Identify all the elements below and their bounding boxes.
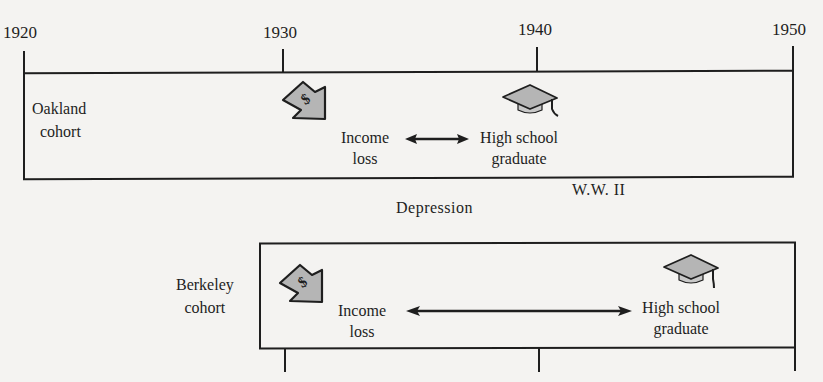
oakland-cohort-label: Oakland cohort (32, 97, 86, 143)
tick-1950 (792, 46, 794, 70)
berkeley-event2-line2: graduate (636, 318, 726, 339)
berkeley-income-loss-label: Income loss (330, 300, 394, 342)
year-label-1920: 1920 (3, 24, 37, 41)
berkeley-label-line2: cohort (176, 296, 234, 319)
double-arrow-icon (405, 133, 469, 145)
oakland-hs-graduate-label: High school graduate (474, 127, 564, 169)
graduation-cap-icon (663, 254, 721, 290)
falling-dollar-arrow-icon: $ (278, 261, 328, 306)
oakland-event1-line2: loss (333, 148, 397, 169)
berkeley-cohort-label: Berkeley cohort (176, 273, 234, 319)
berkeley-event1-line2: loss (330, 321, 394, 342)
oakland-event2-line2: graduate (474, 148, 564, 169)
year-label-1950: 1950 (772, 21, 806, 38)
oakland-label-line1: Oakland (32, 97, 86, 120)
depression-label: Depression (396, 199, 473, 217)
berkeley-hs-graduate-label: High school graduate (636, 297, 726, 339)
tick-1950-bottom (794, 347, 796, 371)
berkeley-event2-line1: High school (636, 297, 726, 318)
year-label-1940: 1940 (518, 21, 552, 38)
oakland-income-loss-label: Income loss (333, 127, 397, 169)
tick-1930 (282, 49, 284, 72)
falling-dollar-arrow-icon: $ (281, 78, 331, 123)
oakland-cohort-box (23, 70, 794, 181)
graduation-cap-icon (502, 84, 560, 120)
tick-1940-bottom (538, 348, 540, 372)
year-label-1930: 1930 (263, 24, 297, 41)
tick-1920 (23, 51, 25, 73)
oakland-event1-line1: Income (333, 127, 397, 148)
ww2-label: W.W. II (572, 181, 625, 199)
berkeley-label-line1: Berkeley (176, 273, 234, 296)
oakland-label-line2: cohort (32, 120, 86, 143)
double-arrow-icon (406, 305, 632, 317)
berkeley-event1-line1: Income (330, 300, 394, 321)
tick-1930-bottom (284, 348, 286, 372)
oakland-event2-line1: High school (474, 127, 564, 148)
tick-1940 (536, 47, 538, 71)
